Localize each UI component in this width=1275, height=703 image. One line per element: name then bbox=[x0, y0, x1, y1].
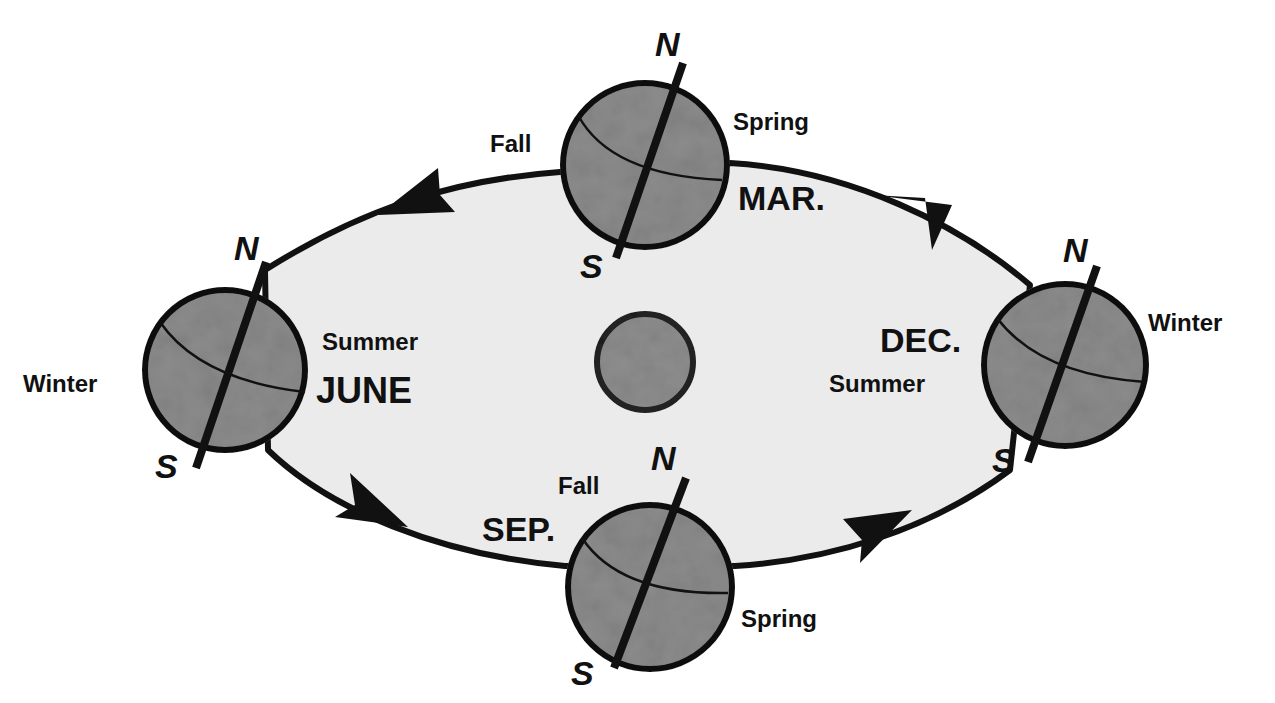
season-label-fall: Fall bbox=[558, 472, 599, 499]
north-pole-label: N bbox=[651, 439, 677, 477]
season-label-summer: Summer bbox=[322, 328, 418, 355]
season-label-fall: Fall bbox=[490, 130, 531, 157]
month-label-december: DEC. bbox=[880, 321, 961, 359]
south-pole-label: S bbox=[155, 447, 178, 485]
season-label-summer: Summer bbox=[829, 370, 925, 397]
south-pole-label: S bbox=[580, 247, 603, 285]
north-pole-label: N bbox=[234, 229, 260, 267]
north-pole-label: N bbox=[1063, 231, 1089, 269]
season-label-spring: Spring bbox=[741, 605, 817, 632]
season-label-winter: Winter bbox=[23, 370, 97, 397]
south-pole-label: S bbox=[992, 441, 1015, 479]
south-pole-label: S bbox=[571, 654, 594, 692]
sun bbox=[597, 314, 693, 410]
season-label-spring: Spring bbox=[733, 108, 809, 135]
north-pole-label: N bbox=[655, 25, 681, 63]
earth-orbit-seasons-diagram: N S Winter Summer JUNE N S Fall Spring M… bbox=[0, 0, 1275, 703]
month-label-june: JUNE bbox=[316, 370, 412, 411]
month-label-september: SEP. bbox=[482, 510, 555, 548]
season-label-winter: Winter bbox=[1148, 309, 1222, 336]
month-label-march: MAR. bbox=[738, 179, 825, 217]
